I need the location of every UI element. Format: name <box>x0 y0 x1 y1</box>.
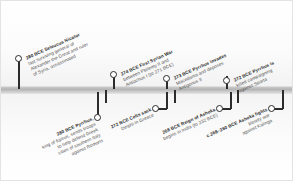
event-dot[interactable] <box>268 105 275 112</box>
event-elbow <box>158 108 167 110</box>
event-dot[interactable] <box>152 105 159 112</box>
event-stem <box>282 92 284 109</box>
event-dot[interactable] <box>15 55 22 62</box>
axis-tick <box>174 90 176 103</box>
event-elbow <box>274 108 283 110</box>
event-dot[interactable] <box>223 77 230 84</box>
event-stem <box>18 61 20 89</box>
event-elbow <box>222 108 231 110</box>
event-dot[interactable] <box>216 105 223 112</box>
event-stem <box>166 92 168 109</box>
event-dot[interactable] <box>110 71 117 78</box>
event-stem <box>230 92 232 109</box>
event-dot[interactable] <box>94 114 101 121</box>
event-stem <box>113 77 115 89</box>
event-dot[interactable] <box>163 75 170 82</box>
axis-tick <box>105 90 107 103</box>
timeline-infographic: 280 BCE Seleucus Nicator last surviving … <box>0 0 293 181</box>
event-stem <box>166 81 168 89</box>
